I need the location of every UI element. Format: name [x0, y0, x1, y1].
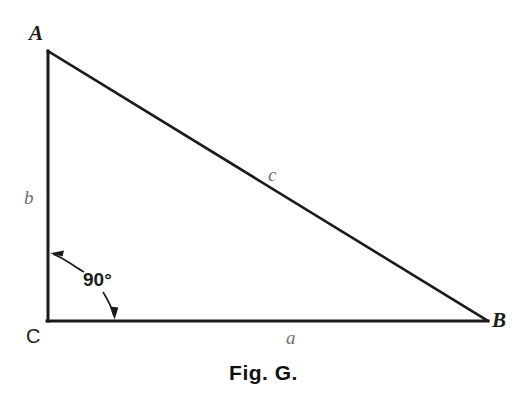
- vertex-label-a: A: [29, 23, 43, 44]
- side-label-b: b: [24, 188, 34, 207]
- vertex-label-c: C: [26, 326, 40, 346]
- figure-container: A B C b c a 90° Fig. G.: [0, 0, 527, 406]
- triangle-diagram: [0, 0, 527, 406]
- triangle-hypotenuse-c: [48, 51, 488, 321]
- angle-arrow-to-leg-b: [53, 254, 84, 272]
- angle-arrow-head-leg-a: [110, 307, 118, 320]
- side-label-c: c: [268, 165, 276, 184]
- right-angle-label: 90°: [83, 270, 112, 289]
- side-label-a: a: [286, 328, 296, 347]
- vertex-label-b: B: [492, 310, 506, 331]
- figure-caption: Fig. G.: [0, 362, 527, 383]
